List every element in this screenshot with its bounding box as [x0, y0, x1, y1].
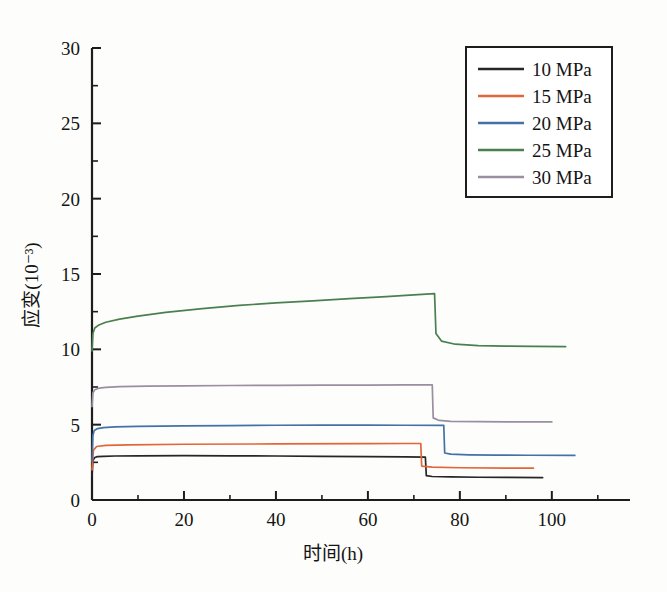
y-tick-label: 20	[61, 189, 80, 210]
legend-label-20-mpa: 20 MPa	[532, 113, 592, 134]
y-tick-label: 0	[71, 490, 81, 511]
y-tick-label: 30	[61, 38, 80, 59]
x-tick-label: 20	[174, 509, 193, 530]
creep-strain-chart: 020406080100 051015202530 时间(h) 应变(10⁻³)…	[0, 0, 667, 592]
y-tick-label: 5	[71, 415, 81, 436]
chart-legend: 10 MPa15 MPa20 MPa25 MPa30 MPa	[466, 47, 612, 197]
y-tick-label: 15	[61, 264, 80, 285]
legend-label-10-mpa: 10 MPa	[532, 59, 592, 80]
chart-canvas: 020406080100 051015202530 时间(h) 应变(10⁻³)…	[0, 0, 667, 592]
y-tick-label: 10	[61, 339, 80, 360]
x-tick-label: 80	[450, 509, 469, 530]
y-axis-title: 应变(10⁻³)	[21, 242, 43, 327]
x-tick-label: 100	[538, 509, 567, 530]
legend-label-25-mpa: 25 MPa	[532, 140, 592, 161]
x-tick-label: 40	[266, 509, 285, 530]
x-tick-label: 0	[87, 509, 97, 530]
legend-label-15-mpa: 15 MPa	[532, 86, 592, 107]
legend-label-30-mpa: 30 MPa	[532, 167, 592, 188]
y-tick-label: 25	[61, 113, 80, 134]
x-tick-label: 60	[358, 509, 377, 530]
x-axis-title: 时间(h)	[303, 543, 363, 565]
